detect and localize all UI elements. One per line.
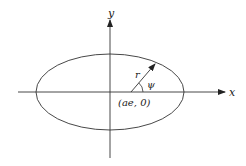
y-axis-label: y	[107, 7, 115, 20]
ellipse-diagram: y x r ψ (ae, 0)	[0, 0, 246, 166]
angle-label: ψ	[147, 79, 155, 90]
radius-label: r	[135, 69, 141, 80]
angle-arc	[139, 83, 143, 92]
x-axis-label: x	[229, 86, 236, 99]
focus-label: (ae, 0)	[118, 97, 151, 108]
